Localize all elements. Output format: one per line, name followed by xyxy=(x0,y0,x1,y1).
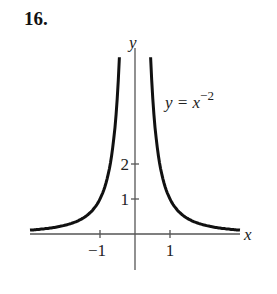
y-tick-label: 2 xyxy=(121,155,130,174)
graph: y x y = x−2 −1112 xyxy=(0,0,277,294)
curve-right-branch xyxy=(151,57,240,230)
x-tick-label: −1 xyxy=(88,241,106,260)
curve-left-branch xyxy=(30,57,119,230)
y-tick-label: 1 xyxy=(121,190,130,209)
x-tick-label: 1 xyxy=(166,241,175,260)
function-label: y = x−2 xyxy=(163,88,214,112)
y-axis-label: y xyxy=(127,33,137,52)
x-axis-label: x xyxy=(243,225,252,244)
